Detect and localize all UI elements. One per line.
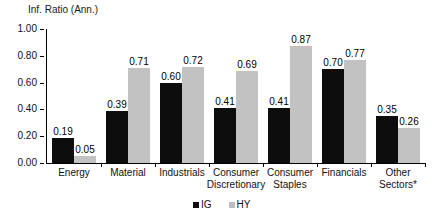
category-label-line: Consumer — [259, 167, 321, 179]
bar-group: 0.410.87 — [268, 29, 312, 163]
bar-hy[interactable] — [290, 46, 312, 163]
category-label-line: Industrials — [151, 167, 213, 179]
category-label-line: Financials — [313, 167, 375, 179]
legend-item[interactable]: HY — [229, 199, 251, 210]
y-tick-label: 0.00 — [18, 158, 37, 168]
y-tick-label: 1.00 — [18, 24, 37, 34]
category-label-line: Energy — [43, 167, 105, 179]
bar-value-label: 0.72 — [178, 55, 208, 66]
bar-group: 0.390.71 — [106, 29, 150, 163]
category-label-line: Other — [367, 167, 429, 179]
y-tick-mark — [40, 83, 44, 84]
bar-ig[interactable] — [268, 108, 290, 163]
y-tick-mark — [40, 29, 44, 30]
chart-legend: IGHY — [193, 199, 250, 210]
y-tick-label: 0.80 — [18, 51, 37, 61]
legend-swatch-icon — [229, 202, 235, 208]
category-label-line: Staples — [259, 179, 321, 191]
bar-ig[interactable] — [322, 69, 344, 163]
y-tick-mark — [40, 163, 44, 164]
bar-hy[interactable] — [74, 156, 96, 163]
category-label-line: Discretionary — [205, 179, 267, 191]
y-tick-label: 0.60 — [18, 78, 37, 88]
bar-hy[interactable] — [128, 68, 150, 163]
y-tick-label: 0.40 — [18, 104, 37, 114]
category-label-line: Sectors* — [367, 179, 429, 191]
category-label: OtherSectors* — [367, 167, 429, 191]
bar-ig[interactable] — [160, 83, 182, 163]
bar-hy[interactable] — [182, 67, 204, 163]
category-label: Industrials — [151, 167, 213, 179]
legend-item[interactable]: IG — [193, 199, 212, 210]
category-label: Energy — [43, 167, 105, 179]
bar-ig[interactable] — [106, 111, 128, 163]
bar-value-label: 0.19 — [48, 126, 78, 137]
bar-ig[interactable] — [214, 108, 236, 163]
bar-group: 0.600.72 — [160, 29, 204, 163]
category-label: ConsumerDiscretionary — [205, 167, 267, 191]
bar-value-label: 0.05 — [70, 144, 100, 155]
y-tick-mark — [40, 136, 44, 137]
category-label: Material — [97, 167, 159, 179]
bar-value-label: 0.26 — [394, 116, 424, 127]
bar-hy[interactable] — [398, 128, 420, 163]
plot-area: 0.190.050.390.710.600.720.410.690.410.87… — [47, 29, 425, 163]
bar-value-label: 0.87 — [286, 34, 316, 45]
bar-group: 0.190.05 — [52, 29, 96, 163]
bar-hy[interactable] — [236, 71, 258, 163]
x-axis-line — [46, 163, 425, 164]
y-tick-label: 0.20 — [18, 131, 37, 141]
category-label: ConsumerStaples — [259, 167, 321, 191]
chart-title: Inf. Ratio (Ann.) — [28, 4, 98, 16]
y-tick-mark — [40, 56, 44, 57]
bar-group: 0.350.26 — [376, 29, 420, 163]
y-tick-mark — [40, 109, 44, 110]
category-label-line: Consumer — [205, 167, 267, 179]
bar-value-label: 0.69 — [232, 59, 262, 70]
legend-label: HY — [237, 199, 251, 210]
bar-value-label: 0.77 — [340, 48, 370, 59]
bar-group: 0.700.77 — [322, 29, 366, 163]
bar-group: 0.410.69 — [214, 29, 258, 163]
bar-hy[interactable] — [344, 60, 366, 163]
category-label-line: Material — [97, 167, 159, 179]
bar-value-label: 0.71 — [124, 56, 154, 67]
bar-value-label: 0.35 — [372, 104, 402, 115]
chart-container: Inf. Ratio (Ann.) 1.000.800.600.400.200.… — [0, 0, 435, 220]
legend-swatch-icon — [193, 202, 199, 208]
legend-label: IG — [201, 199, 212, 210]
category-label: Financials — [313, 167, 375, 179]
